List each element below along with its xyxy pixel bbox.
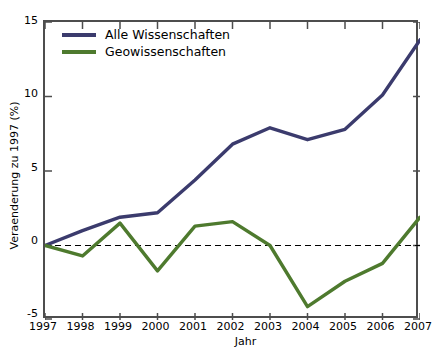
legend-swatch-geowissenschaften xyxy=(62,50,96,54)
y-tick-label-minus5: -5 xyxy=(4,308,38,319)
legend-entry-geowissenschaften: Geowissenschaften xyxy=(62,43,242,60)
x-tick-label-2007: 2007 xyxy=(396,321,440,333)
legend-entry-alle-wissenschaften: Alle Wissenschaften xyxy=(62,26,242,43)
plot-area: Alle Wissenschaften Geowissenschaften xyxy=(43,20,418,318)
line-series-alle-wissenschaften xyxy=(45,40,420,246)
x-axis-title: Jahr xyxy=(0,335,448,348)
y-tick-label-15: 15 xyxy=(4,15,38,26)
axis-ticks xyxy=(45,22,420,320)
legend-label-geowissenschaften: Geowissenschaften xyxy=(105,45,226,59)
chart-plot-svg xyxy=(45,22,420,320)
line-series-geowissenschaften xyxy=(45,217,420,306)
legend-label-alle-wissenschaften: Alle Wissenschaften xyxy=(105,28,230,42)
y-axis-title: Veraenderung zu 1997 (%) xyxy=(8,76,21,276)
legend-swatch-alle-wissenschaften xyxy=(62,33,96,37)
chart-figure: 15 10 5 0 -5 Veraenderung zu 1997 (%) xyxy=(0,0,448,351)
chart-legend: Alle Wissenschaften Geowissenschaften xyxy=(62,26,242,60)
